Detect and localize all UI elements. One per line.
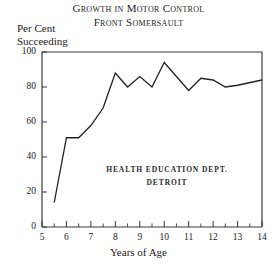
x-tick-label: 8 bbox=[106, 232, 124, 242]
x-tick-label: 9 bbox=[131, 232, 149, 242]
chart-inner-annotation: HEALTH EDUCATION DEPT. DETROIT bbox=[92, 163, 242, 189]
y-tick-label: 60 bbox=[10, 116, 36, 126]
plot-frame bbox=[42, 52, 262, 227]
y-tick-label: 40 bbox=[10, 151, 36, 161]
y-tick-label: 20 bbox=[10, 186, 36, 196]
x-tick-label: 5 bbox=[33, 232, 51, 242]
annotation-line-1: HEALTH EDUCATION DEPT. bbox=[92, 163, 242, 176]
annotation-line-2: DETROIT bbox=[92, 176, 242, 189]
x-tick-label: 6 bbox=[57, 232, 75, 242]
x-tick-label: 12 bbox=[204, 232, 222, 242]
x-tick-label: 14 bbox=[253, 232, 271, 242]
y-tick-label: 80 bbox=[10, 81, 36, 91]
y-tick-label: 0 bbox=[10, 221, 36, 231]
chart-figure: Growth in Motor Control Front Somersault… bbox=[0, 0, 277, 267]
y-axis-label-line-1: Per Cent bbox=[17, 22, 68, 35]
y-tick-label: 100 bbox=[10, 46, 36, 56]
x-tick-label: 13 bbox=[229, 232, 247, 242]
x-tick-label: 11 bbox=[180, 232, 198, 242]
x-tick-label: 10 bbox=[155, 232, 173, 242]
y-axis-label: Per Cent Succeeding bbox=[17, 22, 68, 47]
x-axis-label: Years of Age bbox=[0, 246, 277, 258]
chart-title-line-1: Growth in Motor Control bbox=[0, 2, 277, 16]
x-tick-label: 7 bbox=[82, 232, 100, 242]
